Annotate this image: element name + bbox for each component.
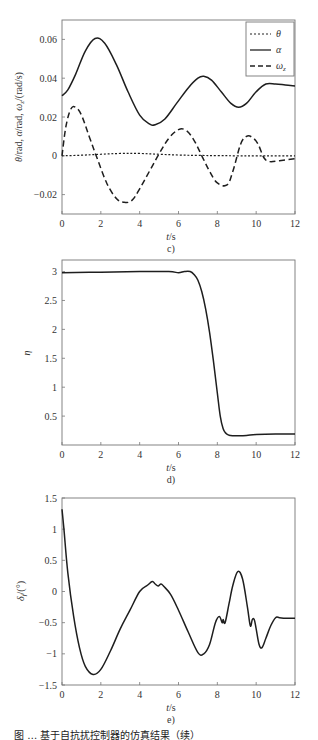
panel-c-caption: c) [167, 243, 175, 255]
x-tick-label: 12 [290, 218, 300, 229]
panel-e-ylabel: δf/(°) [15, 581, 28, 601]
plot-frame [62, 498, 295, 685]
x-tick-label: 0 [60, 689, 65, 700]
x-tick-label: 2 [98, 689, 103, 700]
y-tick-label: 0.04 [40, 73, 58, 84]
x-tick-label: 2 [98, 218, 103, 229]
y-tick-label: 0 [52, 586, 57, 597]
panel-d-caption: d) [167, 474, 175, 486]
x-tick-label: 8 [215, 218, 220, 229]
x-tick-label: 6 [176, 449, 181, 460]
y-tick-label: −1 [46, 648, 57, 659]
y-tick-label: −1.5 [39, 680, 57, 691]
y-tick-label: 0.06 [40, 34, 58, 45]
x-tick-label: 10 [251, 689, 261, 700]
y-tick-label: 0.5 [45, 555, 58, 566]
panel-e-chart: 024681012−1.5−1−0.500.511.5 [39, 493, 300, 701]
x-tick-label: 12 [290, 689, 300, 700]
y-tick-label: −0.02 [34, 189, 57, 200]
y-tick-label: −0.5 [39, 617, 57, 628]
x-tick-label: 0 [60, 218, 65, 229]
y-tick-label: 1 [52, 382, 57, 393]
legend-alpha-label: α [276, 44, 282, 55]
series-line-η [62, 271, 295, 436]
x-tick-label: 8 [215, 689, 220, 700]
x-tick-label: 0 [60, 449, 65, 460]
x-tick-label: 10 [251, 449, 261, 460]
legend-theta-label: θ [276, 28, 281, 39]
y-tick-label: 2 [52, 324, 57, 335]
figure-caption: 图 … 基于自抗扰控制器的仿真结果（续） [14, 729, 200, 740]
legend-box [246, 22, 294, 76]
panel-d-chart: 0246810120.511.522.53 [45, 260, 301, 460]
series-line-δf [62, 509, 295, 674]
figure-canvas: 024681012−0.0200.020.040.06 θ α ωz t/s c… [0, 0, 318, 740]
x-tick-label: 10 [251, 218, 261, 229]
x-tick-label: 4 [137, 218, 142, 229]
panel-c-ylabel: θ/rad, α/rad, ωz/(rad/s) [13, 72, 26, 162]
y-tick-label: 3 [52, 266, 57, 277]
panel-d-ylabel: η [21, 350, 32, 355]
x-tick-label: 4 [137, 449, 142, 460]
series-line-θ [62, 153, 295, 155]
y-tick-label: 2.5 [45, 295, 58, 306]
y-tick-label: 0.02 [40, 112, 58, 123]
panel-e-xlabel: t/s [166, 702, 176, 713]
panel-c-legend: θ α ωz [246, 22, 294, 76]
y-tick-label: 1.5 [45, 353, 58, 364]
x-tick-label: 6 [176, 218, 181, 229]
x-tick-label: 12 [290, 449, 300, 460]
x-tick-label: 6 [176, 689, 181, 700]
y-tick-label: 1 [52, 524, 57, 535]
panel-e-caption: e) [167, 714, 175, 726]
x-tick-label: 4 [137, 689, 142, 700]
plot-frame [62, 260, 295, 445]
x-tick-label: 2 [98, 449, 103, 460]
panel-c-xlabel: t/s [166, 231, 176, 242]
y-tick-label: 0.5 [45, 411, 58, 422]
panel-d-xlabel: t/s [166, 462, 176, 473]
y-tick-label: 0 [52, 150, 57, 161]
y-tick-label: 1.5 [45, 493, 58, 504]
x-tick-label: 8 [215, 449, 220, 460]
